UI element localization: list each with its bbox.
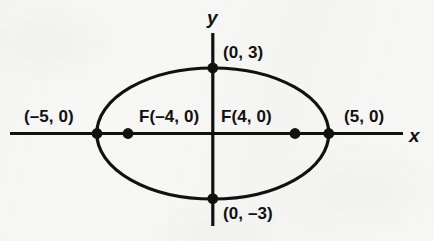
point-vertex-right	[323, 128, 334, 139]
point-vertex-left	[92, 128, 103, 139]
label-covertex-top: (0, 3)	[223, 44, 263, 62]
point-focus-left	[123, 128, 134, 139]
x-axis-label: x	[409, 126, 420, 146]
y-axis-label: y	[207, 8, 218, 28]
label-focus-left: F(–4, 0)	[139, 108, 199, 126]
ellipse-figure: (–5, 0) F(–4, 0) F(4, 0) (5, 0) (0, 3) (…	[0, 0, 434, 241]
label-vertex-right: (5, 0)	[344, 108, 384, 126]
label-covertex-bottom: (0, –3)	[223, 205, 273, 223]
label-focus-right: F(4, 0)	[221, 108, 272, 126]
point-focus-right	[290, 128, 301, 139]
point-covertex-bottom	[207, 193, 218, 204]
point-covertex-top	[207, 63, 218, 74]
label-vertex-left: (–5, 0)	[24, 108, 74, 126]
